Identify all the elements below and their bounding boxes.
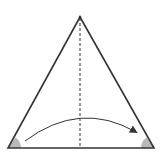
triangle-outline: [8, 17, 154, 148]
left-angle-marker: [8, 138, 21, 149]
right-angle-marker: [141, 138, 154, 149]
diagram-canvas: [0, 0, 168, 163]
triangle-diagram: [0, 0, 168, 163]
apex-point: [79, 16, 82, 19]
